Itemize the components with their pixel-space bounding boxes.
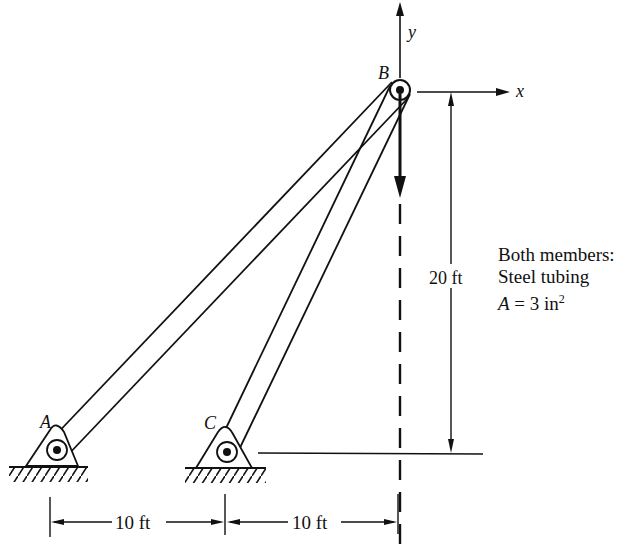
dimension-height: 20 ft	[258, 92, 483, 454]
member-properties-note: Both members: Steel tubing A = 3 in2	[498, 244, 615, 315]
dimension-arrow-icon	[227, 519, 240, 525]
note-line-3: A = 3 in2	[498, 288, 615, 315]
label-C: C	[204, 413, 217, 433]
ground-hatch-icon	[9, 468, 88, 482]
area-exponent: 2	[559, 292, 565, 306]
x-axis: x	[417, 81, 524, 101]
down-arrow-icon	[394, 176, 406, 198]
height-dimension-label: 20 ft	[429, 268, 463, 288]
dimension-arrow-icon	[211, 519, 224, 525]
y-axis-label: y	[406, 22, 416, 42]
note-line-2: Steel tubing	[498, 266, 615, 288]
x-axis-arrow-icon	[496, 88, 510, 96]
member-AB	[49, 82, 408, 458]
dimension-horizontal: 10 ft 10 ft	[50, 494, 398, 537]
member-CB	[217, 86, 410, 456]
label-B: B	[378, 63, 389, 83]
dimension-arrow-icon	[384, 519, 397, 525]
label-A: A	[39, 412, 52, 432]
x-axis-label: x	[515, 81, 524, 101]
dimension-arrow-icon	[448, 92, 454, 106]
pin-C-icon	[223, 448, 231, 456]
ground-hatch-icon	[185, 469, 266, 483]
note-line-1: Both members:	[498, 244, 615, 266]
joint-B: B	[378, 63, 410, 100]
area-value: = 3 in	[510, 293, 559, 314]
dimension-AC-label: 10 ft	[115, 512, 151, 533]
dimension-arrow-icon	[448, 439, 454, 453]
support-C: C	[185, 413, 266, 483]
y-axis-arrow-icon	[396, 2, 404, 16]
pin-B-icon	[396, 86, 404, 94]
area-variable: A	[498, 293, 510, 314]
dimension-CB-label: 10 ft	[292, 512, 328, 533]
pin-A-icon	[53, 446, 61, 454]
dimension-arrow-icon	[51, 519, 64, 525]
y-axis: y	[396, 2, 416, 78]
